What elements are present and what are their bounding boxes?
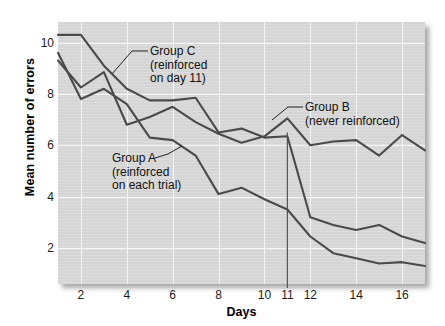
gridline-vertical bbox=[264, 22, 265, 284]
x-tick-label: 6 bbox=[158, 288, 188, 302]
gridline-vertical bbox=[81, 22, 82, 284]
x-tick-label: 8 bbox=[204, 288, 234, 302]
x-tick-label: 4 bbox=[112, 288, 142, 302]
gridline-horizontal bbox=[58, 145, 425, 146]
y-tick-label: 2 bbox=[24, 242, 54, 254]
gridline-horizontal bbox=[58, 248, 425, 249]
annotation-group-c: Group C (reinforced on day 11) bbox=[150, 45, 207, 86]
x-tick-label: 14 bbox=[341, 288, 371, 302]
y-axis-title: Mean number of errors bbox=[23, 37, 37, 217]
annotation-group-b: Group B (never reinforced) bbox=[305, 101, 400, 128]
x-tick-label: 2 bbox=[66, 288, 96, 302]
gridline-horizontal bbox=[58, 43, 425, 44]
x-axis-ticks: 24681011121416 bbox=[58, 288, 425, 304]
gridline-vertical bbox=[402, 22, 403, 284]
annotation-group-a: Group A (reinforced on each trial) bbox=[112, 152, 181, 193]
x-axis-title: Days bbox=[58, 305, 425, 319]
gridline-vertical bbox=[310, 22, 311, 284]
gridline-horizontal bbox=[58, 94, 425, 95]
gridline-vertical bbox=[219, 22, 220, 284]
x-tick-label: 16 bbox=[387, 288, 417, 302]
chart-figure: 108642 24681011121416 Mean number of err… bbox=[0, 0, 445, 326]
x-tick-label: 12 bbox=[295, 288, 325, 302]
gridline-horizontal bbox=[58, 197, 425, 198]
gridline-vertical bbox=[356, 22, 357, 284]
